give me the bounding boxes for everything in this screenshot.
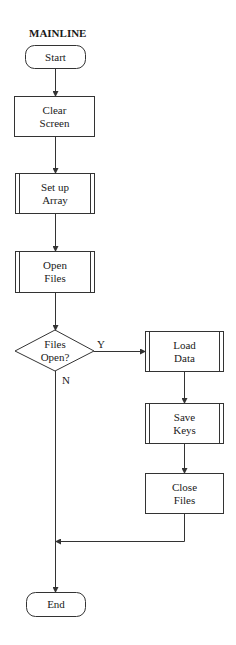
save-keys-node: Save Keys xyxy=(145,403,224,444)
load-data-node: Load Data xyxy=(145,331,224,372)
files-open-decision: Files Open? xyxy=(15,330,95,372)
clear-screen-node: Clear Screen xyxy=(14,96,95,137)
setup-array-node: Set up Array xyxy=(15,173,95,214)
open-files-node: Open Files xyxy=(15,251,95,293)
end-node: End xyxy=(26,592,86,617)
start-node: Start xyxy=(25,45,86,69)
close-files-node: Close Files xyxy=(145,473,224,514)
diagram-title: MAINLINE xyxy=(29,27,86,39)
yes-branch-label: Y xyxy=(97,339,105,350)
no-branch-label: N xyxy=(62,375,70,386)
